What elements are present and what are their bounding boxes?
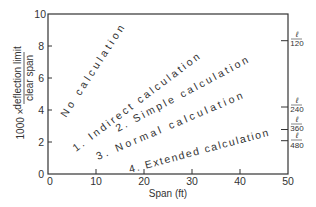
x-tick-label: 40 xyxy=(234,175,246,187)
x-tick-label: 30 xyxy=(186,175,198,187)
x-tick-label: 50 xyxy=(282,175,294,187)
y-label-prefix: 1000 × xyxy=(15,108,26,139)
y-tick-label: 4 xyxy=(38,104,44,116)
x-axis-label: Span (ft) xyxy=(149,188,187,199)
ratio-numerator: ℓ xyxy=(295,115,299,124)
ratio-denominator: 480 xyxy=(290,141,304,150)
ratio-denominator: 120 xyxy=(290,39,304,48)
y-tick-label: 6 xyxy=(38,72,44,84)
zone-labels: No calculation 1. Indirect calculation 2… xyxy=(58,20,271,175)
y-axis-label: 1000 × deflection limit clear span xyxy=(12,46,35,139)
y-label-numerator: deflection limit xyxy=(12,46,23,110)
ratio-denominator: 240 xyxy=(290,105,304,114)
y-tick-label: 0 xyxy=(38,168,44,180)
zone-no-calculation: No calculation xyxy=(58,20,128,119)
ratio-numerator: ℓ xyxy=(295,131,299,140)
deflection-chart: 0 2 4 6 8 10 0 10 20 30 40 50 Span (ft) … xyxy=(0,0,316,207)
y-tick-label: 2 xyxy=(38,136,44,148)
x-tick-label: 20 xyxy=(138,175,150,187)
ratio-numerator: ℓ xyxy=(295,30,299,39)
x-tick-label: 0 xyxy=(47,175,53,187)
ratio-numerator: ℓ xyxy=(295,96,299,105)
x-tick-label: 10 xyxy=(90,175,102,187)
y-label-denominator: clear span xyxy=(24,55,35,101)
right-axis-ratios: ℓ 120 ℓ 240 ℓ 360 ℓ 480 xyxy=(281,30,304,150)
y-tick-label: 8 xyxy=(38,40,44,52)
y-tick-label: 10 xyxy=(34,8,46,20)
y-axis: 0 2 4 6 8 10 xyxy=(34,8,52,180)
